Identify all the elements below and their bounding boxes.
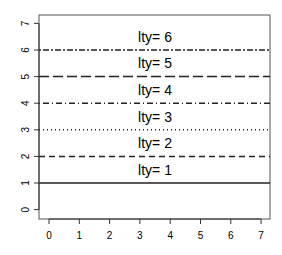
y-tick-label: 2 [20, 153, 31, 159]
y-tick-label: 1 [20, 180, 31, 186]
x-tick-label: 2 [107, 230, 113, 241]
x-tick-label: 1 [77, 230, 83, 241]
y-tick-label: 4 [20, 100, 31, 106]
y-axis: 01234567 [20, 20, 40, 212]
y-tick-label: 5 [20, 73, 31, 79]
x-axis: 01234567 [46, 219, 264, 241]
y-tick-label: 0 [20, 206, 31, 212]
x-tick-label: 5 [198, 230, 204, 241]
x-tick-label: 0 [46, 230, 52, 241]
x-tick-label: 6 [228, 230, 234, 241]
y-tick-label: 6 [20, 47, 31, 53]
line-label: lty= 3 [138, 109, 172, 125]
x-tick-label: 3 [137, 230, 143, 241]
line-label: lty= 4 [138, 82, 172, 98]
y-tick-label: 3 [20, 127, 31, 133]
line-label: lty= 5 [138, 55, 172, 71]
line-label: lty= 1 [138, 162, 172, 178]
x-tick-label: 7 [258, 230, 264, 241]
line-label: lty= 6 [138, 29, 172, 45]
line-label: lty= 2 [138, 135, 172, 151]
x-tick-label: 4 [167, 230, 173, 241]
y-tick-label: 7 [20, 20, 31, 26]
line-type-chart: lty= 1lty= 2lty= 3lty= 4lty= 5lty= 6 012… [0, 0, 282, 255]
